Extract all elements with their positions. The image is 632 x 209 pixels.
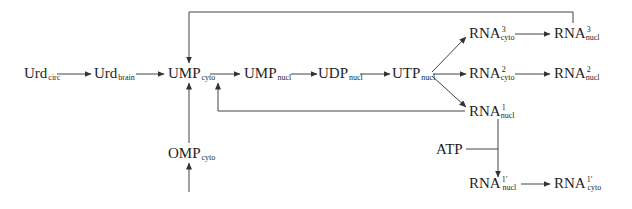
node-subscript: nucl [586, 73, 600, 82]
node-label: Urd [24, 65, 47, 81]
arrow-rna1nucl-umpnucl [218, 83, 465, 111]
node-udp-nucl: UDPnucl [318, 66, 363, 82]
node-label: RNA [469, 103, 501, 119]
node-rna1p-cyto: RNA1′cyto [554, 176, 601, 192]
arrow-utp-rna1nucl [432, 76, 466, 107]
arrow-rna3nucl-umpcyto [189, 12, 573, 63]
node-label: UTP [392, 65, 420, 81]
node-subscript: cyto [501, 73, 515, 82]
node-subscript: brain [118, 73, 134, 82]
node-rna2-nucl: RNA2nucl [554, 66, 599, 82]
node-label: OMP [168, 145, 201, 161]
node-subscript: circ [48, 73, 60, 82]
node-subscript: cyto [202, 73, 216, 82]
pathway-connectors [0, 0, 632, 209]
node-label: RNA [554, 65, 586, 81]
node-label: UMP [168, 65, 201, 81]
node-label: RNA [469, 65, 501, 81]
node-rna3-cyto: RNA3cyto [469, 26, 514, 42]
node-atp: ATP [436, 142, 463, 157]
node-ump-cyto: UMPcyto [168, 66, 215, 82]
node-urd-circ: Urdcirc [24, 66, 60, 82]
node-rna2-cyto: RNA2cyto [469, 66, 514, 82]
node-label: ATP [436, 141, 463, 157]
node-urd-brain: Urdbrain [94, 66, 135, 82]
node-omp-cyto: OMPcyto [168, 146, 215, 162]
node-subscript: cyto [501, 33, 515, 42]
node-utp-nucl: UTPnucl [392, 66, 435, 82]
node-subscript: nucl [502, 183, 516, 192]
node-rna1-nucl: RNA1nucl [469, 104, 514, 120]
node-label: RNA [554, 25, 586, 41]
node-ump-nucl: UMPnucl [244, 66, 291, 82]
node-subscript: nucl [501, 111, 515, 120]
node-subscript: cyto [587, 183, 601, 192]
node-label: RNA [469, 175, 501, 191]
node-subscript: cyto [202, 153, 216, 162]
node-subscript: nucl [349, 73, 363, 82]
node-rna1p-nucl: RNA1′nucl [469, 176, 516, 192]
node-label: Urd [94, 65, 117, 81]
node-subscript: nucl [278, 73, 292, 82]
node-rna3-nucl: RNA3nucl [554, 26, 599, 42]
node-subscript: nucl [586, 33, 600, 42]
node-label: RNA [469, 25, 501, 41]
node-label: UDP [318, 65, 348, 81]
node-label: RNA [554, 175, 586, 191]
arrow-utp-rna3cyto [432, 37, 466, 72]
node-label: UMP [244, 65, 277, 81]
node-subscript: nucl [421, 73, 435, 82]
